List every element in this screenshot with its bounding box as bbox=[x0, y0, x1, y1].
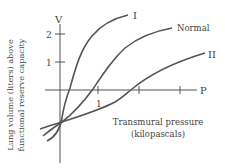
y-axis-label-line-1: Lung volume (liters) above bbox=[5, 39, 15, 151]
curve-label-normal: Normal bbox=[177, 23, 210, 33]
curve-label-II: II bbox=[208, 49, 216, 60]
pressure-volume-chart: V P 2 1 1 Lung volume (liters) above fun… bbox=[0, 0, 225, 168]
x-axis-symbol: P bbox=[200, 85, 207, 96]
y-tick-label-2: 2 bbox=[46, 30, 52, 40]
x-axis-label-line-1: Transmural pressure bbox=[113, 117, 204, 127]
y-axis-label-line-2: functional reserve capacity bbox=[16, 38, 26, 151]
y-tick-label-1: 1 bbox=[46, 58, 52, 68]
y-axis-symbol: V bbox=[54, 14, 63, 25]
y-axis-label: Lung volume (liters) above functional re… bbox=[5, 38, 26, 151]
x-axis-label-line-2: (kilopascals) bbox=[131, 129, 185, 139]
x-tick-label-1: 1 bbox=[96, 99, 102, 109]
curve-label-I: I bbox=[133, 10, 137, 21]
